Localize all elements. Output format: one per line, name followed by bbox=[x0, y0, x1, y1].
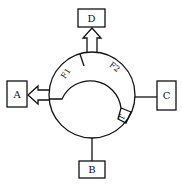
arrow-to-d bbox=[83, 28, 101, 52]
band-divider-f1-f2 bbox=[80, 54, 84, 66]
main-circle bbox=[49, 52, 135, 138]
system-diagram: D A C B F1 F2 T bbox=[0, 0, 182, 191]
band-label-f1: F1 bbox=[59, 67, 72, 81]
box-d-label: D bbox=[87, 13, 95, 24]
box-b-label: B bbox=[88, 164, 95, 175]
box-a-label: A bbox=[12, 89, 21, 100]
box-c-label: C bbox=[163, 90, 171, 101]
band-inner-edge bbox=[50, 81, 121, 108]
arrow-to-a bbox=[28, 86, 50, 104]
